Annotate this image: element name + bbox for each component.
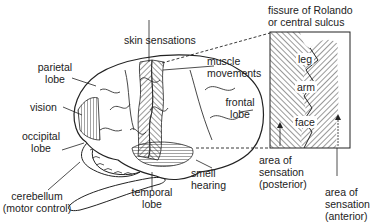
- label-line: lobe: [18, 142, 64, 154]
- label-occipital-lobe: occipital lobe: [18, 130, 64, 154]
- inset-label-leg: leg: [296, 53, 314, 65]
- label-area-anterior: area of sensation (anterior): [325, 186, 370, 222]
- label-muscle-movements: muscle movements: [207, 55, 261, 79]
- label-fissure-of-rolando: fissure of Rolando or central sulcus: [268, 4, 353, 28]
- label-line: or central sulcus: [268, 16, 353, 28]
- label-line: sensation: [325, 198, 370, 210]
- label-frontal-lobe: frontal lobe: [222, 96, 258, 120]
- label-line: lobe: [35, 73, 75, 85]
- label-line: area of: [259, 154, 307, 166]
- label-line: lobe: [222, 108, 258, 120]
- label-smell-hearing: smell hearing: [191, 167, 226, 191]
- label-line: (motor control): [1, 202, 73, 214]
- label-area-posterior: area of sensation (posterior): [259, 154, 307, 190]
- label-line: fissure of Rolando: [268, 4, 353, 16]
- label-cerebellum: cerebellum (motor control): [1, 190, 73, 214]
- label-line: cerebellum: [1, 190, 73, 202]
- label-line: area of: [325, 186, 370, 198]
- label-line: smell: [191, 167, 226, 179]
- label-line: parietal: [35, 61, 75, 73]
- label-line: lobe: [128, 198, 176, 210]
- inset-label-arm: arm: [295, 81, 317, 93]
- label-line: temporal: [128, 186, 176, 198]
- label-line: muscle: [207, 55, 261, 67]
- label-line: movements: [207, 67, 261, 79]
- label-line: occipital: [18, 130, 64, 142]
- label-line: (anterior): [325, 210, 370, 222]
- label-line: (posterior): [259, 178, 307, 190]
- label-vision: vision: [30, 101, 57, 113]
- label-parietal-lobe: parietal lobe: [35, 61, 75, 85]
- label-line: sensation: [259, 166, 307, 178]
- label-skin-sensations: skin sensations: [124, 34, 196, 46]
- label-line: frontal: [222, 96, 258, 108]
- label-line: hearing: [191, 179, 226, 191]
- inset-label-face: face: [293, 116, 317, 128]
- label-temporal-lobe: temporal lobe: [128, 186, 176, 210]
